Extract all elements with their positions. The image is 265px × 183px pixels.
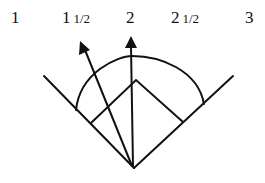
vertical-arrow-shaft: [131, 46, 133, 166]
left-arrow-shaft: [85, 50, 132, 166]
left-ray: [44, 76, 134, 168]
left-arrow-head-icon: [79, 41, 90, 55]
vertical-arrow-head-icon: [125, 36, 137, 48]
angle-diagram: [0, 0, 265, 183]
